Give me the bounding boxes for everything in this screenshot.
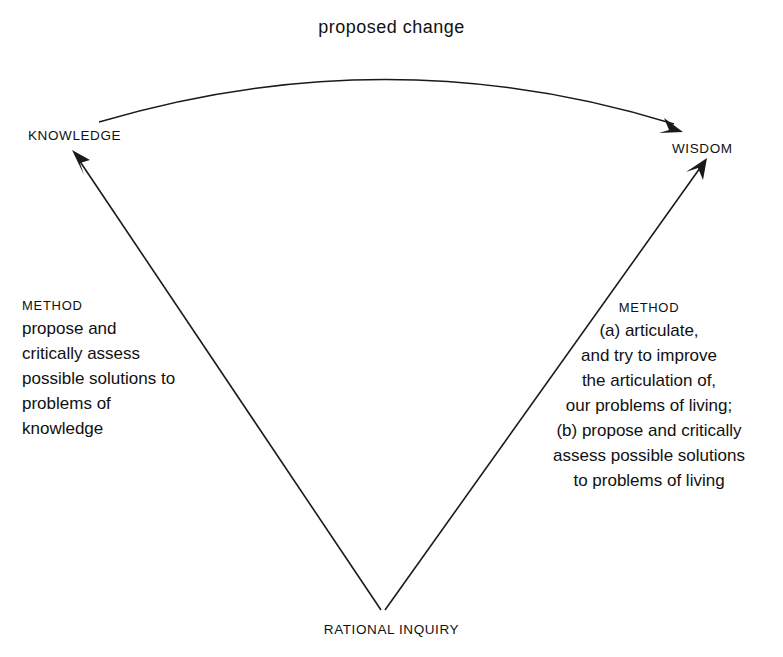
arc-knowledge-to-wisdom xyxy=(99,79,674,124)
method-heading-knowledge: METHOD xyxy=(22,296,252,316)
method-line: and try to improve xyxy=(520,343,778,368)
method-line: (a) articulate, xyxy=(520,318,778,343)
method-block-wisdom: METHOD (a) articulate, and try to improv… xyxy=(520,298,778,493)
arrowhead-line-to-wisdom xyxy=(686,158,707,180)
method-line: propose and xyxy=(22,316,252,341)
method-line: to problems of living xyxy=(520,468,778,493)
node-label-wisdom: WISDOM xyxy=(672,141,733,156)
node-label-knowledge: KNOWLEDGE xyxy=(28,128,121,143)
method-line: our problems of living; xyxy=(520,393,778,418)
method-block-knowledge: METHOD propose and critically assess pos… xyxy=(22,296,252,441)
method-line: (b) propose and critically xyxy=(520,418,778,443)
method-heading-wisdom: METHOD xyxy=(520,298,778,318)
method-line: the articulation of, xyxy=(520,368,778,393)
method-line: problems of xyxy=(22,391,252,416)
method-line: assess possible solutions xyxy=(520,443,778,468)
method-line: possible solutions to xyxy=(22,366,252,391)
node-label-rational-inquiry: RATIONAL INQUIRY xyxy=(0,622,783,637)
arc-label-proposed-change: proposed change xyxy=(0,17,783,38)
method-line: knowledge xyxy=(22,416,252,441)
diagram-canvas: proposed change KNOWLEDGE WISDOM RATIONA… xyxy=(0,0,783,657)
method-line: critically assess xyxy=(22,341,252,366)
